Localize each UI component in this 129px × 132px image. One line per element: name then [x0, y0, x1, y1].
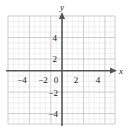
x-axis-label: x	[118, 66, 123, 76]
x-tick-label-4: 4	[96, 75, 101, 85]
x-tick-label-zero: 0	[54, 75, 59, 85]
y-tick-label-4: 4	[53, 33, 58, 43]
coordinate-plane-svg: −4 −2 0 2 4 4 2 −2 −4 x y	[0, 0, 129, 132]
y-axis-label: y	[59, 2, 64, 12]
coordinate-plane-figure: −4 −2 0 2 4 4 2 −2 −4 x y	[0, 0, 129, 132]
y-tick-label-neg4: −4	[48, 109, 58, 119]
x-tick-label-neg2: −2	[38, 75, 48, 85]
x-tick-label-2: 2	[74, 75, 79, 85]
y-tick-label-neg2: −2	[48, 88, 58, 98]
y-tick-label-2: 2	[53, 54, 58, 64]
x-tick-label-neg4: −4	[17, 75, 27, 85]
